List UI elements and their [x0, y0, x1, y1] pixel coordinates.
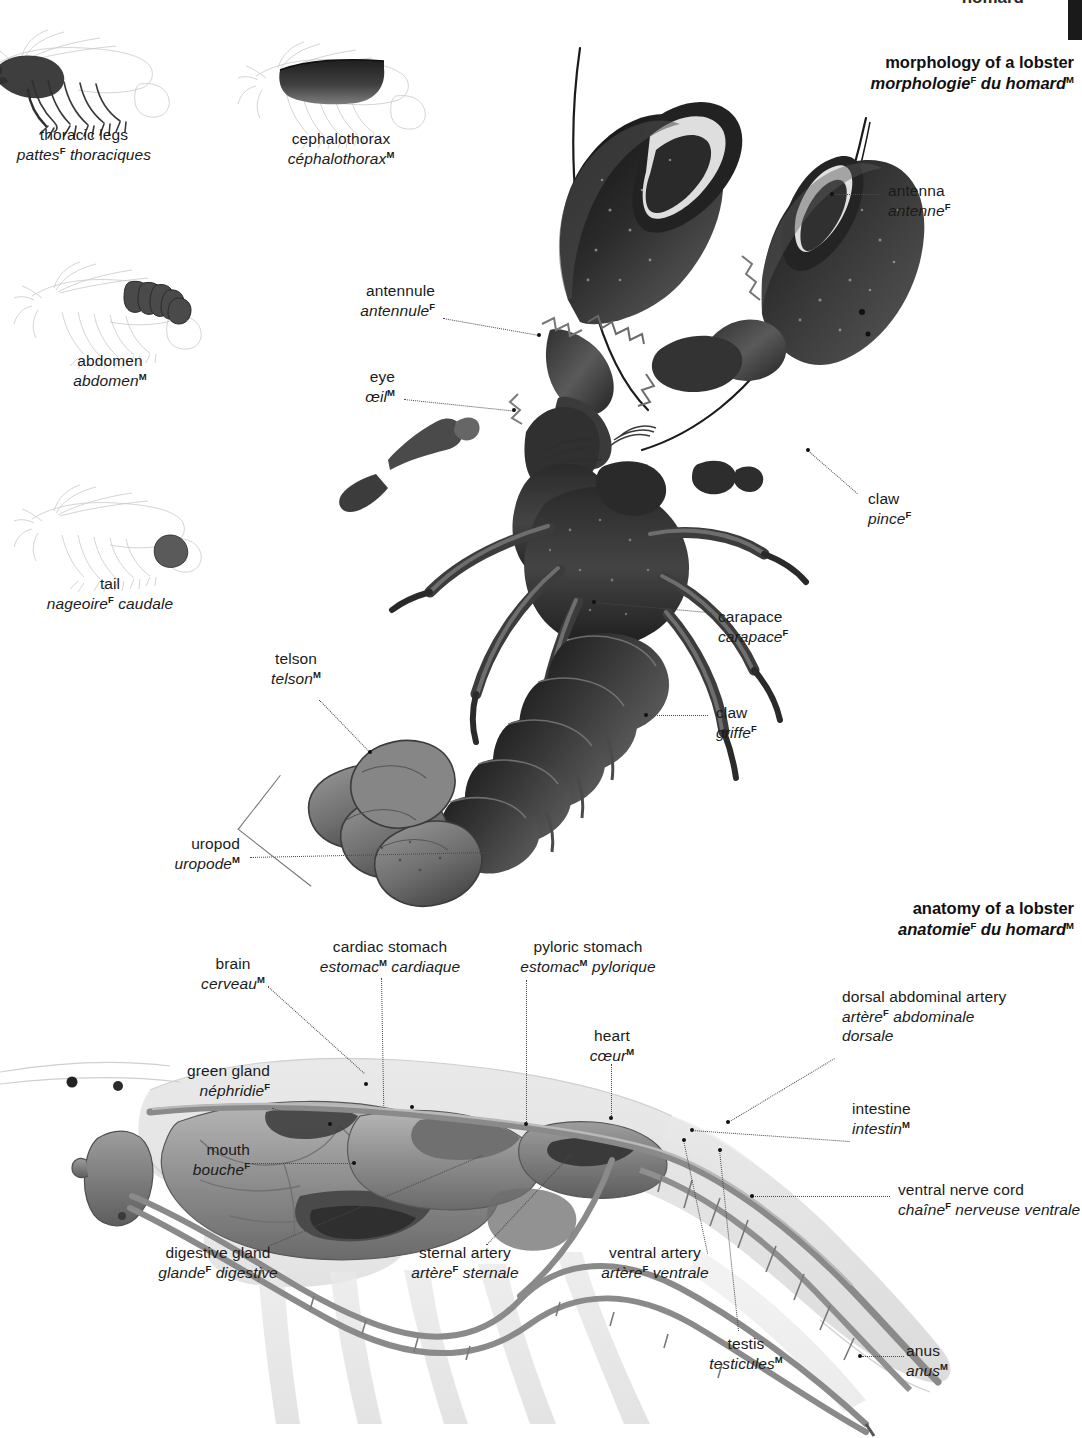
label-anus: anus anusM: [906, 1342, 948, 1381]
label-mouth-fr: boucheF: [100, 1160, 250, 1180]
leader-dot-dorsal-abdominal-artery: [726, 1120, 730, 1124]
label-testis-en: testis: [666, 1335, 826, 1354]
leader-dot-brain: [364, 1082, 368, 1086]
label-brain-fr: cerveauM: [168, 974, 298, 994]
label-mouth: mouth boucheF: [100, 1141, 250, 1180]
label-sternal-artery-en: sternal artery: [370, 1244, 560, 1263]
label-heart: heart cœurM: [562, 1027, 662, 1066]
label-claw-griffe: claw griffeF: [716, 704, 757, 743]
label-ventral-nerve-cord-fr: chaîneF nerveuse ventrale: [898, 1200, 1080, 1220]
label-dorsal-abdominal-artery: dorsal abdominal artery artèreF abdomina…: [842, 988, 1006, 1046]
thumbnail-abdomen-en: abdomen: [0, 352, 220, 371]
label-ventral-nerve-cord-en: ventral nerve cord: [898, 1181, 1080, 1200]
label-antenna: antenna antenneF: [888, 182, 951, 221]
label-ventral-artery-en: ventral artery: [560, 1244, 750, 1263]
thumbnail-thoracic-legs: thoracic legs pattesF thoraciques: [0, 22, 192, 152]
label-uropod-fr: uropodeM: [60, 854, 240, 874]
leader-dot-ventral-artery: [682, 1138, 686, 1142]
leader-dot-pyloric-stomach: [524, 1122, 528, 1126]
leader-ventral-nerve-cord: [752, 1196, 890, 1197]
leader-dot-cardiac-stomach: [410, 1105, 414, 1109]
label-cardiac-stomach-en: cardiac stomach: [290, 938, 490, 957]
label-brain-en: brain: [168, 955, 298, 974]
label-claw-griffe-fr: griffeF: [716, 723, 757, 743]
thumbnail-tail-fr: nageoireF caudale: [0, 594, 230, 614]
leader-dot-heart: [609, 1116, 613, 1120]
label-anus-en: anus: [906, 1342, 948, 1361]
label-digestive-gland: digestive gland glandeF digestive: [118, 1244, 318, 1283]
thumbnail-abdomen: abdomen abdomenM: [10, 252, 210, 382]
label-cardiac-stomach: cardiac stomach estomacM cardiaque: [290, 938, 490, 977]
label-intestine-fr: intestinM: [852, 1119, 911, 1139]
label-eye-en: eye: [220, 368, 395, 387]
thumbnail-thoracic-legs-label: thoracic legs pattesF thoraciques: [0, 126, 184, 165]
label-sternal-artery: sternal artery artèreF sternale: [370, 1244, 560, 1283]
leader-anus: [862, 1356, 904, 1357]
leader-dot-ventral-nerve-cord: [750, 1194, 754, 1198]
leader-heart: [611, 1064, 612, 1118]
leader-mouth: [252, 1163, 354, 1164]
leader-dot-telson: [368, 750, 372, 754]
thumbnail-thoracic-legs-en: thoracic legs: [0, 126, 184, 145]
thumbnail-tail: tail nageoireF caudale: [10, 475, 210, 605]
label-heart-fr: cœurM: [562, 1046, 662, 1066]
leader-dot-claw-pince: [806, 448, 810, 452]
heading-anatomy-fr: anatomieF du homardM: [898, 919, 1074, 940]
label-claw-pince-fr: pinceF: [868, 509, 911, 529]
label-cardiac-stomach-fr: estomacM cardiaque: [290, 957, 490, 977]
label-pyloric-stomach-en: pyloric stomach: [488, 938, 688, 957]
leader-antenna: [832, 194, 880, 195]
label-heart-en: heart: [562, 1027, 662, 1046]
label-intestine-en: intestine: [852, 1100, 911, 1119]
label-ventral-artery: ventral artery artèreF ventrale: [560, 1244, 750, 1283]
lobster-morphology-illustration: [250, 30, 950, 910]
leader-dot-intestine: [690, 1128, 694, 1132]
label-ventral-artery-fr: artèreF ventrale: [560, 1263, 750, 1283]
label-pyloric-stomach-fr: estomacM pylorique: [488, 957, 688, 977]
thumbnail-tail-label: tail nageoireF caudale: [0, 575, 230, 614]
label-carapace-fr: carapaceF: [718, 627, 788, 647]
label-antenna-fr: antenneF: [888, 201, 951, 221]
thumbnail-abdomen-fr: abdomenM: [0, 371, 220, 391]
label-digestive-gland-fr: glandeF digestive: [118, 1263, 318, 1283]
label-uropod-en: uropod: [60, 835, 240, 854]
leader-dot-green-gland: [328, 1122, 332, 1126]
label-telson-fr: telsonM: [215, 669, 377, 689]
label-carapace-en: carapace: [718, 608, 788, 627]
label-antennule-en: antennule: [200, 282, 435, 301]
index-tab: [1068, 0, 1082, 40]
label-ventral-nerve-cord: ventral nerve cord chaîneF nerveuse vent…: [898, 1181, 1080, 1220]
label-green-gland-fr: néphridieF: [90, 1081, 270, 1101]
label-dorsal-abdominal-artery-en: dorsal abdominal artery: [842, 988, 1006, 1007]
organ-testis: [487, 1188, 576, 1250]
leader-pyloric-stomach: [526, 980, 527, 1124]
label-testis-fr: testiculesM: [666, 1354, 826, 1374]
leader-dot-eye: [512, 408, 516, 412]
label-antennule-fr: antennuleF: [200, 301, 435, 321]
label-eye-fr: œilM: [220, 387, 395, 407]
label-eye: eye œilM: [220, 368, 395, 407]
label-carapace: carapace carapaceF: [718, 608, 788, 647]
label-claw-griffe-en: claw: [716, 704, 757, 723]
label-claw-pince-en: claw: [868, 490, 911, 509]
label-green-gland: green gland néphridieF: [90, 1062, 270, 1101]
page-root: homard morphology of a lobster morpholog…: [0, 0, 1082, 1438]
label-digestive-gland-en: digestive gland: [118, 1244, 318, 1263]
running-header: homard: [962, 0, 1024, 4]
thumbnail-thoracic-legs-fr: pattesF thoraciques: [0, 145, 184, 165]
label-dorsal-abdominal-artery-fr2: dorsale: [842, 1027, 1006, 1046]
label-brain: brain cerveauM: [168, 955, 298, 994]
thumbnail-tail-en: tail: [0, 575, 230, 594]
leader-dot-claw-griffe: [644, 713, 648, 717]
label-uropod: uropod uropodeM: [60, 835, 240, 874]
label-antennule: antennule antennuleF: [200, 282, 435, 321]
leader-dot-carapace: [592, 600, 596, 604]
label-antenna-en: antenna: [888, 182, 951, 201]
label-telson-en: telson: [215, 650, 377, 669]
label-sternal-artery-fr: artèreF sternale: [370, 1263, 560, 1283]
leader-dot-mouth: [352, 1161, 356, 1165]
label-dorsal-abdominal-artery-fr: artèreF abdominale: [842, 1007, 1006, 1027]
label-anus-fr: anusM: [906, 1361, 948, 1381]
label-claw-pince: claw pinceF: [868, 490, 911, 529]
label-mouth-en: mouth: [100, 1141, 250, 1160]
